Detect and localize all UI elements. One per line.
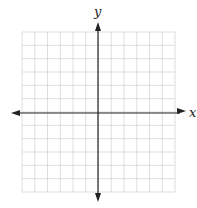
coordinate-plane: x y [0,0,197,208]
y-axis-label: y [93,4,102,19]
y-axis-up-arrow-icon [95,22,101,31]
x-axis-label: x [189,105,197,120]
x-axis-left-arrow-icon [11,110,20,116]
x-axis-right-arrow-icon [177,108,186,114]
y-axis-down-arrow-icon [95,193,101,202]
